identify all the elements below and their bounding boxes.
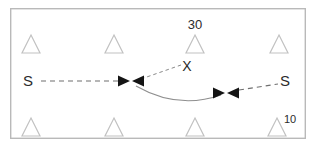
triangle-top-1: [22, 35, 40, 53]
arrow-left-inbound: [118, 76, 130, 87]
triangle-top-4: [270, 35, 288, 53]
triangle-top-3: [186, 35, 204, 53]
diagram-frame-border: [11, 9, 306, 139]
arrow-center-outbound: [132, 76, 144, 87]
arc-center-to-right: [136, 86, 221, 101]
diagram-svg: S S X 30 10: [0, 0, 317, 147]
label-value-top: 30: [188, 17, 202, 32]
triangle-bottom-1: [22, 118, 40, 136]
triangle-bottom-3: [186, 118, 204, 136]
label-value-bottom: 10: [284, 113, 296, 125]
triangle-top-2: [105, 35, 123, 53]
label-node-marker: X: [182, 58, 192, 74]
label-source-left: S: [23, 72, 33, 89]
diagram-canvas: S S X 30 10: [0, 0, 317, 147]
dashed-right-segment: [239, 84, 278, 90]
arrow-right-inbound: [213, 88, 225, 99]
label-source-right: S: [280, 72, 290, 89]
leader-line-x: [141, 65, 181, 79]
arrow-right-outbound: [227, 88, 239, 99]
triangle-bottom-2: [105, 118, 123, 136]
